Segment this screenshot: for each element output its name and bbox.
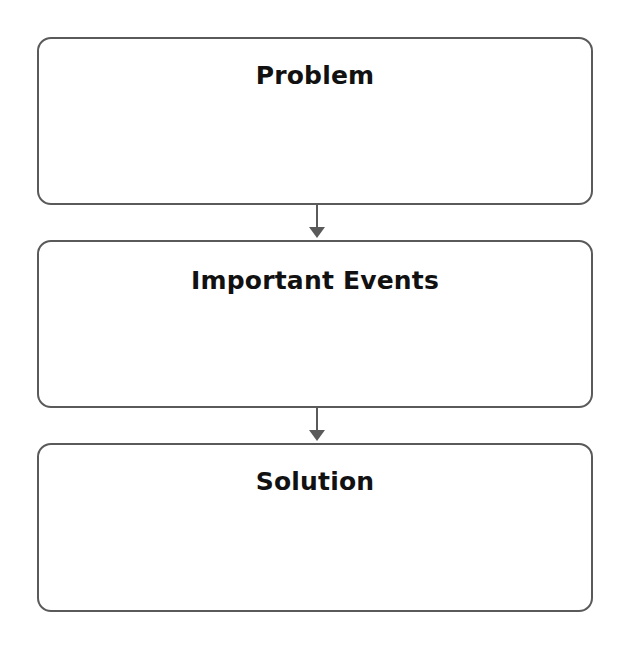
important-events-content[interactable] [51, 302, 579, 394]
solution-content[interactable] [51, 505, 579, 598]
important-events-box[interactable]: Important Events [37, 240, 593, 408]
solution-title: Solution [39, 467, 591, 496]
solution-box[interactable]: Solution [37, 443, 593, 612]
problem-title: Problem [39, 61, 591, 90]
problem-content[interactable] [51, 99, 579, 191]
arrow-down-icon [309, 205, 325, 240]
arrow-down-icon [309, 408, 325, 443]
important-events-title: Important Events [39, 266, 591, 295]
problem-box[interactable]: Problem [37, 37, 593, 205]
